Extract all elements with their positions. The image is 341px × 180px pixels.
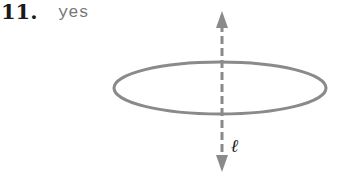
axis-label: ℓ (231, 137, 239, 155)
arrow-down-icon (216, 155, 228, 172)
arrow-up-icon (216, 11, 228, 28)
rotation-figure (0, 0, 341, 180)
circle-ellipse (114, 62, 326, 114)
